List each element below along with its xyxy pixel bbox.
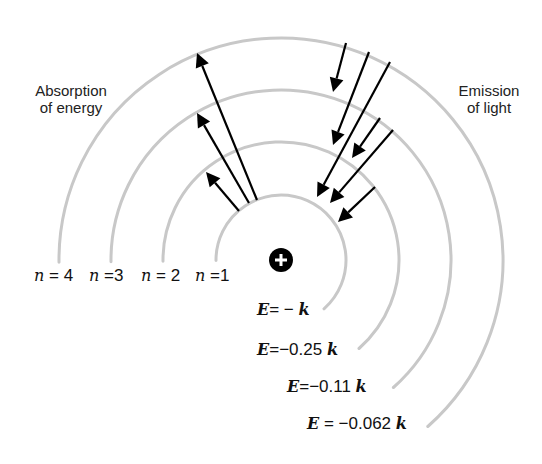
emission-label-line2: of light (447, 99, 531, 116)
arrow-shaft (338, 52, 369, 132)
orbit-group (59, 38, 503, 427)
emission-arrow-n3-to-n1 (330, 130, 393, 203)
n-label-1: n =1 (195, 266, 229, 286)
energy-label-2: E=−0.25 k (257, 340, 338, 360)
emission-label: Emission of light (447, 82, 531, 116)
absorption-label-line2: of energy (22, 99, 120, 116)
emission-label-line1: Emission (447, 82, 531, 99)
orbit-n4 (59, 38, 503, 427)
energy-label-1: E= − k (257, 300, 310, 320)
absorption-label: Absorption of energy (22, 82, 120, 116)
emission-arrow-n4-to-n3 (330, 43, 346, 92)
arrowhead-icon (352, 143, 366, 159)
arrowhead-icon (330, 77, 344, 92)
n-label-3: n =3 (89, 266, 123, 286)
arrow-shaft (215, 183, 239, 211)
absorption-label-line1: Absorption (22, 82, 120, 99)
arrow-shaft (360, 118, 380, 147)
emission-arrow-n2-to-n1 (338, 187, 375, 222)
absorption-arrow-n1-to-n3 (197, 113, 249, 203)
energy-label-4: E = −0.062 k (307, 414, 407, 434)
n-label-2: n = 2 (141, 266, 180, 286)
arrow-shaft (348, 187, 375, 212)
nucleus (269, 248, 293, 272)
bohr-diagram (0, 0, 542, 464)
n-label-4: n = 4 (34, 266, 73, 286)
arrow-shaft (337, 43, 346, 78)
energy-label-3: E=−0.11 k (287, 377, 367, 397)
